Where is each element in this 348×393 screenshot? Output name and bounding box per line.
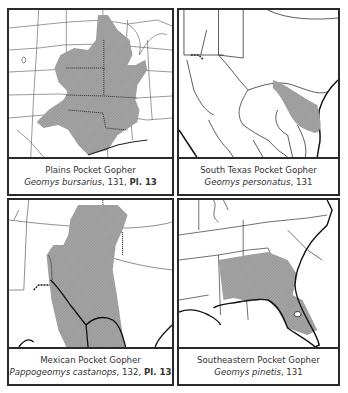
range-map-panel-mexican-pocket-gopher: Mexican Pocket Gopher Pappogeomys castan… [7, 198, 174, 386]
range-map-panel-south-texas-pocket-gopher: South Texas Pocket Gopher Geomys persona… [177, 8, 340, 196]
page-reference: , 131 [291, 177, 313, 187]
range-area [219, 252, 318, 335]
plate-reference: Pl. 13 [144, 367, 171, 377]
lake-okeechobee [294, 312, 301, 317]
range-area [273, 80, 321, 133]
scientific-reference: Geomys pinetis, 131 [179, 366, 338, 378]
scientific-reference: Geomys bursarius, 131, Pl. 13 [9, 176, 172, 188]
scientific-reference: Geomys personatus, 131 [179, 176, 338, 188]
range-map-panel-plains-pocket-gopher: Plains Pocket Gopher Geomys bursarius, 1… [7, 8, 174, 196]
scientific-name: Geomys bursarius [24, 177, 102, 187]
range-map-southeastern [179, 200, 338, 349]
range-area [37, 15, 148, 155]
common-name: Mexican Pocket Gopher [9, 354, 172, 366]
range-map-south-texas [179, 10, 338, 159]
scientific-name: Pappogeomys castanops [10, 367, 117, 377]
common-name: South Texas Pocket Gopher [179, 164, 338, 176]
caption: Mexican Pocket Gopher Pappogeomys castan… [9, 347, 172, 384]
common-name: Southeastern Pocket Gopher [179, 354, 338, 366]
caption: Southeastern Pocket Gopher Geomys pineti… [179, 347, 338, 384]
range-map-panel-southeastern-pocket-gopher: Southeastern Pocket Gopher Geomys pineti… [177, 198, 340, 386]
caption: Plains Pocket Gopher Geomys bursarius, 1… [9, 157, 172, 194]
scientific-name: Geomys personatus [205, 177, 291, 187]
range-map-plains [9, 10, 172, 159]
scientific-name: Geomys pinetis [214, 367, 281, 377]
range-area [47, 205, 128, 347]
page-reference: , 131 [281, 367, 303, 377]
page-reference: , 131, [102, 177, 129, 187]
plate-reference: Pl. 13 [129, 177, 156, 187]
scientific-reference: Pappogeomys castanops, 132, Pl. 13 [9, 366, 172, 378]
range-map-mexican [9, 200, 172, 349]
caption: South Texas Pocket Gopher Geomys persona… [179, 157, 338, 194]
common-name: Plains Pocket Gopher [9, 164, 172, 176]
page-reference: , 132, [117, 367, 144, 377]
